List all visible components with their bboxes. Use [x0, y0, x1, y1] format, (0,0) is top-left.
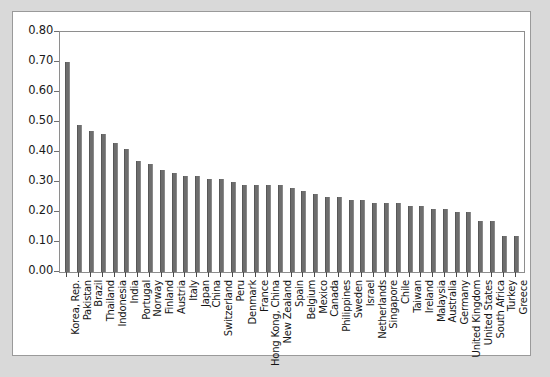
- x-axis-label-slot: Australia: [439, 278, 451, 356]
- chart-page: 0.800.700.600.500.400.300.200.100.00 Kor…: [0, 0, 550, 377]
- x-axis-label-slot: Brazil: [85, 278, 97, 356]
- x-axis-label-slot: Japan: [191, 278, 203, 356]
- x-axis-label-slot: Malaysia: [427, 278, 439, 356]
- y-axis-tick-label: 0.40: [28, 145, 53, 156]
- x-axis-label-slot: Peru: [226, 278, 238, 356]
- x-axis-label-slot: Germany: [450, 278, 462, 356]
- y-axis-tick-mark: [54, 31, 59, 32]
- x-axis-label-slot: Philippines: [332, 278, 344, 356]
- x-axis-label-slot: Korea, Rep.: [61, 278, 73, 356]
- x-axis-tick-label: Italy: [189, 255, 199, 278]
- x-axis-tick-label: South Africa: [496, 218, 506, 278]
- x-axis-tick-label: Netherlands: [378, 217, 388, 278]
- x-axis-label-slot: Canada: [321, 278, 333, 356]
- chart-panel: 0.800.700.600.500.400.300.200.100.00 Kor…: [12, 11, 531, 356]
- x-axis-label-slot: Pakistan: [73, 278, 85, 356]
- x-axis-labels: Korea, Rep.PakistanBrazilThailandIndones…: [59, 278, 523, 356]
- x-axis-tick-label: Denmark: [248, 231, 258, 278]
- x-axis-label-slot: Israel: [356, 278, 368, 356]
- x-axis-tick-label: Korea, Rep.: [71, 221, 81, 278]
- x-axis-label-slot: Italy: [179, 278, 191, 356]
- x-axis-label-slot: United Kingdom: [462, 278, 474, 356]
- x-axis-tick-label: Canada: [330, 239, 340, 278]
- x-axis-label-slot: Indonesia: [108, 278, 120, 356]
- x-axis-tick-label: Belgium: [307, 236, 317, 278]
- x-axis-tick-mark: [66, 272, 67, 277]
- bar[interactable]: [65, 62, 70, 272]
- y-axis-tick-mark: [54, 151, 59, 152]
- x-axis-tick-label: Singapore: [389, 227, 399, 278]
- x-axis-tick-label: Greece: [519, 242, 529, 278]
- bar-slot: [156, 32, 168, 272]
- x-axis-label-slot: Thailand: [96, 278, 108, 356]
- bar-slot: [357, 32, 369, 272]
- y-axis-tick-mark: [54, 211, 59, 212]
- x-axis-label-slot: Norway: [144, 278, 156, 356]
- x-axis-tick-label: Portugal: [142, 236, 152, 278]
- x-axis-tick-label: Taiwan: [413, 243, 423, 278]
- x-axis-tick-label: Peru: [236, 255, 246, 278]
- y-axis: 0.800.700.600.500.400.300.200.100.00: [13, 12, 57, 357]
- x-axis-tick-label: India: [130, 252, 140, 278]
- x-axis-tick-label: France: [260, 244, 270, 278]
- x-axis-tick-label: Hong Kong, China: [271, 190, 281, 278]
- x-axis-tick-label: Mexico: [319, 242, 329, 278]
- x-axis-label-slot: Singapore: [380, 278, 392, 356]
- x-axis-tick-label: Philippines: [342, 224, 352, 278]
- y-axis-tick-mark: [54, 91, 59, 92]
- x-axis-label-slot: Portugal: [132, 278, 144, 356]
- y-axis-tick-mark: [54, 121, 59, 122]
- x-axis-tick-label: Switzerland: [224, 220, 234, 278]
- bar-slot: [192, 32, 204, 272]
- bar-chart: 0.800.700.600.500.400.300.200.100.00 Kor…: [13, 12, 532, 357]
- x-axis-label-slot: Chile: [391, 278, 403, 356]
- x-axis-label-slot: China: [203, 278, 215, 356]
- x-axis-tick-label: New Zealand: [283, 212, 293, 278]
- x-axis-tick-label: Austria: [177, 242, 187, 278]
- bar-slot: [510, 32, 522, 272]
- x-axis-tick-label: Indonesia: [118, 229, 128, 278]
- bar-slot: [416, 32, 428, 272]
- x-axis-label-slot: Spain: [285, 278, 297, 356]
- y-axis-tick-label: 0.10: [28, 235, 53, 246]
- x-axis-tick-label: Sweden: [354, 238, 364, 278]
- bar-slot: [322, 32, 334, 272]
- y-axis-tick-mark: [54, 241, 59, 242]
- x-axis-tick-label: United States: [484, 211, 494, 278]
- y-axis-tick-mark: [54, 271, 59, 272]
- y-axis-tick-label: 0.80: [28, 25, 53, 36]
- x-axis-tick-label: Spain: [295, 249, 305, 278]
- bar-slot: [180, 32, 192, 272]
- x-axis-tick-label: Japan: [201, 249, 211, 278]
- x-axis-tick-label: Israel: [366, 250, 376, 278]
- x-axis-tick-label: Chile: [401, 252, 411, 278]
- x-axis-tick-label: China: [212, 248, 222, 278]
- x-axis-label-slot: India: [120, 278, 132, 356]
- x-axis-tick-label: Brazil: [94, 249, 104, 278]
- x-axis-tick-label: Malaysia: [437, 234, 447, 278]
- bar-slot: [204, 32, 216, 272]
- x-axis-label-slot: Sweden: [344, 278, 356, 356]
- x-axis-label-slot: Belgium: [297, 278, 309, 356]
- x-axis-tick-label: Norway: [153, 239, 163, 278]
- x-axis-label-slot: Taiwan: [403, 278, 415, 356]
- x-axis-tick-label: United Kingdom: [472, 199, 482, 278]
- x-axis-label-slot: France: [250, 278, 262, 356]
- y-axis-tick-label: 0.50: [28, 115, 53, 126]
- x-axis-label-slot: Hong Kong, China: [262, 278, 274, 356]
- x-axis-label-slot: New Zealand: [273, 278, 285, 356]
- y-axis-tick-mark: [54, 61, 59, 62]
- x-axis-tick-label: Ireland: [425, 243, 435, 278]
- x-axis-label-slot: Mexico: [309, 278, 321, 356]
- x-axis-tick-label: Pakistan: [83, 236, 93, 278]
- x-axis-label-slot: Netherlands: [368, 278, 380, 356]
- y-axis-tick-label: 0.20: [28, 205, 53, 216]
- x-axis-tick-label: Turkey: [507, 245, 517, 278]
- x-axis-label-slot: Ireland: [415, 278, 427, 356]
- y-axis-tick-label: 0.30: [28, 175, 53, 186]
- x-axis-tick-label: Thailand: [106, 235, 116, 278]
- y-axis-tick-mark: [54, 181, 59, 182]
- y-axis-tick-label: 0.70: [28, 55, 53, 66]
- x-axis-label-slot: United States: [474, 278, 486, 356]
- y-axis-tick-label: 0.60: [28, 85, 53, 96]
